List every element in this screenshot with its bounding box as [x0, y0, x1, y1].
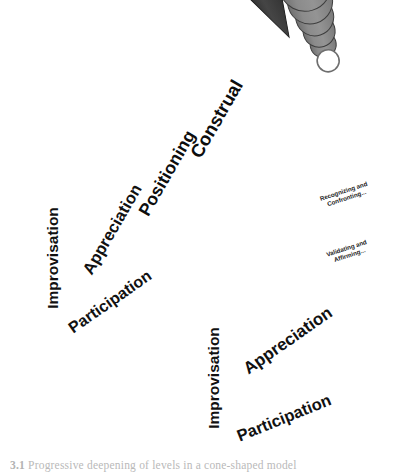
figure-caption: 3.1 Progressive deepening of levels in a…: [10, 459, 402, 472]
figure-caption-text: Progressive deepening of levels in a con…: [28, 459, 297, 471]
label-improvisation-left: Improvisation: [44, 207, 61, 309]
label-improvisation-right: Improvisation: [205, 327, 222, 429]
figure-caption-number: 3.1: [10, 459, 25, 471]
